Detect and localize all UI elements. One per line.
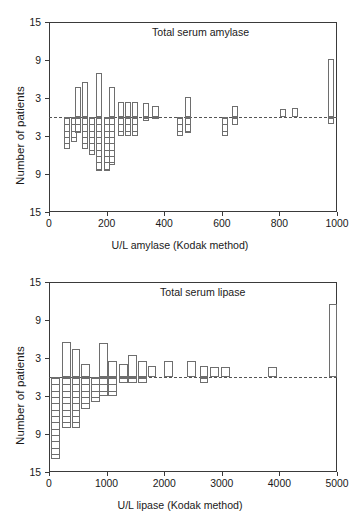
- amylase-bar-down: [125, 117, 131, 136]
- amylase-y-tick-label: 3: [15, 93, 41, 104]
- amylase-x-tick-label: 0: [46, 218, 52, 229]
- lipase-bar-up: [187, 361, 196, 377]
- amylase-bar-down: [96, 117, 102, 171]
- amylase-bar-down: [222, 117, 228, 136]
- lipase-bar-up: [210, 367, 219, 377]
- lipase-x-tick-label: 4000: [268, 478, 291, 489]
- lipase-x-tick-label: 5000: [325, 478, 348, 489]
- amylase-y-tick: [45, 98, 49, 99]
- lipase-x-tick-label: 2000: [153, 478, 176, 489]
- amylase-bar-down: [143, 117, 149, 121]
- lipase-x-tick: [49, 472, 50, 476]
- amylase-bar-down: [185, 117, 191, 133]
- amylase-bar-up: [82, 82, 88, 117]
- lipase-bar-down: [200, 377, 209, 383]
- amylase-x-tick: [222, 212, 223, 216]
- lipase-x-tick: [164, 472, 165, 476]
- lipase-bar-up: [148, 366, 157, 377]
- amylase-bar-up: [232, 106, 238, 117]
- lipase-y-tick-label: 9: [15, 429, 41, 440]
- amylase-x-tick-label: 1000: [325, 218, 348, 229]
- lipase-bar-down: [99, 377, 108, 396]
- amylase-bar-up: [109, 87, 115, 117]
- amylase-bar-down: [152, 117, 158, 119]
- panel-title-lipase: Total serum lipase: [160, 286, 245, 298]
- amylase-bar-down: [75, 117, 81, 133]
- lipase-bar-down: [51, 377, 60, 459]
- amylase-bar-up: [118, 102, 124, 117]
- lipase-bar-up: [72, 349, 81, 377]
- lipase-bar-down: [119, 377, 128, 383]
- panel-title-amylase: Total serum amylase: [152, 26, 249, 38]
- amylase-bar-down: [132, 117, 138, 136]
- lipase-y-tick: [45, 282, 49, 283]
- lipase-y-tick-label: 3: [15, 353, 41, 364]
- lipase-y-tick: [45, 396, 49, 397]
- lipase-bar-up: [268, 367, 277, 377]
- lipase-x-tick: [222, 472, 223, 476]
- lipase-x-tick-label: 1000: [95, 478, 118, 489]
- amylase-bar-down: [328, 117, 334, 124]
- lipase-bar-up: [200, 366, 209, 377]
- lipase-y-tick: [45, 320, 49, 321]
- lipase-bar-down: [62, 377, 71, 428]
- lipase-bar-up: [81, 364, 90, 377]
- amylase-y-tick-label: 3: [15, 131, 41, 142]
- amylase-x-tick-label: 800: [271, 218, 288, 229]
- amylase-bar-up: [143, 103, 149, 117]
- amylase-x-tick-label: 200: [98, 218, 115, 229]
- amylase-bar-up: [185, 97, 191, 117]
- lipase-x-tick: [337, 472, 338, 476]
- amylase-bar-down: [118, 117, 124, 136]
- amylase-x-tick-label: 600: [213, 218, 230, 229]
- lipase-y-tick-label: 15: [15, 277, 41, 288]
- lipase-x-tick-label: 3000: [210, 478, 233, 489]
- lipase-y-tick-label: 3: [15, 391, 41, 402]
- amylase-bar-up: [280, 109, 286, 117]
- lipase-y-tick: [45, 434, 49, 435]
- lipase-bar-up: [128, 355, 137, 377]
- amylase-bar-down: [64, 117, 70, 149]
- amylase-bar-up: [328, 59, 334, 117]
- amylase-x-tick: [107, 212, 108, 216]
- chart-panel-lipase: Number of patients Total serum lipase U/…: [0, 260, 360, 519]
- amylase-y-tick: [45, 174, 49, 175]
- lipase-bar-up: [108, 361, 117, 377]
- amylase-x-tick: [49, 212, 50, 216]
- amylase-x-tick: [279, 212, 280, 216]
- amylase-bar-up: [96, 73, 102, 117]
- x-axis-title-amylase: U/L amylase (Kodak method): [0, 239, 360, 251]
- lipase-bar-up: [164, 361, 173, 377]
- lipase-bar-down: [72, 377, 81, 428]
- amylase-y-tick: [45, 60, 49, 61]
- amylase-bar-up: [292, 108, 298, 117]
- lipase-y-tick-label: 9: [15, 315, 41, 326]
- chart-panel-amylase: Number of patients Total serum amylase U…: [0, 0, 360, 259]
- lipase-bar-down: [81, 377, 90, 409]
- lipase-bar-down: [138, 377, 147, 383]
- lipase-x-tick-label: 0: [46, 478, 52, 489]
- amylase-x-tick: [164, 212, 165, 216]
- amylase-y-tick-label: 15: [15, 17, 41, 28]
- amylase-x-tick: [337, 212, 338, 216]
- amylase-y-tick-label: 9: [15, 55, 41, 66]
- amylase-bar-down: [89, 117, 95, 155]
- amylase-y-tick-label: 9: [15, 169, 41, 180]
- figure-root: Number of patients Total serum amylase U…: [0, 0, 360, 519]
- lipase-x-tick: [107, 472, 108, 476]
- lipase-bar-up: [329, 304, 338, 377]
- lipase-bar-up: [62, 342, 71, 377]
- amylase-bar-up: [132, 102, 138, 117]
- amylase-bar-down: [177, 117, 183, 136]
- lipase-bar-up: [119, 364, 128, 377]
- amylase-bar-up: [152, 106, 158, 117]
- amylase-bar-down: [82, 117, 88, 149]
- amylase-bar-down: [232, 117, 238, 125]
- amylase-y-tick-label: 15: [15, 207, 41, 218]
- lipase-bar-up: [99, 343, 108, 377]
- amylase-x-tick-label: 400: [156, 218, 173, 229]
- lipase-y-tick: [45, 358, 49, 359]
- lipase-bar-down: [108, 377, 117, 396]
- lipase-bar-up: [221, 367, 230, 377]
- amylase-bar-up: [125, 102, 131, 117]
